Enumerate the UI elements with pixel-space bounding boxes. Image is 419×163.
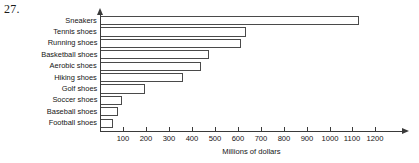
x-axis-tick: [238, 127, 239, 132]
bar: [100, 50, 209, 59]
x-axis-title: Millions of dollars: [108, 147, 396, 156]
y-axis-arrowhead-icon: [97, 8, 103, 15]
x-axis-arrowhead-icon: [402, 128, 409, 134]
bar: [100, 119, 113, 128]
x-axis-tick: [146, 127, 147, 132]
bar: [100, 16, 359, 25]
bar: [100, 84, 145, 93]
x-axis-tick: [169, 127, 170, 132]
x-axis-tick: [215, 127, 216, 132]
x-axis-tick: [352, 127, 353, 132]
category-label: Sneakers: [66, 17, 97, 25]
x-axis-tick: [192, 127, 193, 132]
x-axis-tick: [261, 127, 262, 132]
category-label: Running shoes: [47, 39, 97, 47]
x-axis-tick: [284, 127, 285, 132]
bar-chart: SneakersTennis shoesRunning shoesBasketb…: [0, 0, 419, 163]
bar: [100, 62, 201, 71]
x-axis-tick-label: 1200: [361, 134, 390, 143]
category-label: Tennis shoes: [54, 28, 97, 36]
x-axis-tick: [307, 127, 308, 132]
x-axis-tick: [330, 127, 331, 132]
bar: [100, 73, 183, 82]
x-axis-tick: [123, 127, 124, 132]
category-label: Baseball shoes: [47, 108, 97, 116]
category-label: Hiking shoes: [54, 74, 97, 82]
category-axis-labels: SneakersTennis shoesRunning shoesBasketb…: [0, 0, 99, 163]
category-label: Basketball shoes: [41, 51, 97, 59]
chart-page: 27. SneakersTennis shoesRunning shoesBas…: [0, 0, 419, 163]
bar: [100, 39, 241, 48]
y-axis-line: [100, 14, 101, 131]
category-label: Soccer shoes: [52, 96, 97, 104]
category-label: Football shoes: [49, 119, 97, 127]
bar: [100, 107, 118, 116]
category-label: Aerobic shoes: [50, 62, 97, 70]
x-axis-tick: [375, 127, 376, 132]
bar: [100, 96, 122, 105]
category-label: Golf shoes: [61, 85, 97, 93]
bar: [100, 27, 246, 36]
